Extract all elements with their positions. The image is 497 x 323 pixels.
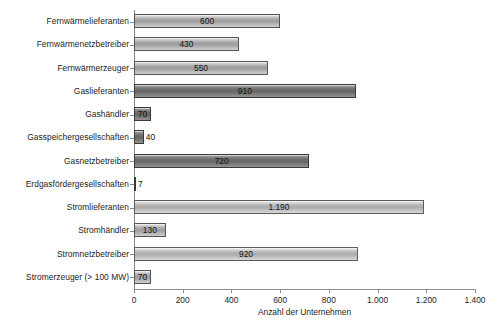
bar[interactable]: 130	[134, 223, 166, 237]
category-label: Fernwärmenetzbetreiber	[37, 39, 129, 49]
x-axis-tick-label: 1.400	[465, 295, 486, 305]
bar[interactable]: 920	[134, 247, 358, 261]
chart-row: Fernwärmenetzbetreiber430	[0, 33, 497, 55]
x-axis-tick	[378, 289, 379, 293]
bar-wrapper[interactable]: 7	[134, 177, 136, 191]
bar-chart: Fernwärmelieferanten600Fernwärmenetzbetr…	[0, 0, 497, 323]
category-label: Fernwärmerzeuger	[57, 63, 129, 73]
category-label: Stromerzeuger (> 100 MW)	[26, 272, 129, 282]
x-axis-tick-label: 400	[224, 295, 238, 305]
bar[interactable]: 550	[134, 61, 268, 75]
x-axis-tick-label: 1.200	[416, 295, 437, 305]
x-axis-tick-label: 800	[322, 295, 336, 305]
chart-row: Stromhändler130	[0, 219, 497, 241]
x-axis-tick	[329, 289, 330, 293]
bar-wrapper[interactable]: 40	[134, 130, 144, 144]
bar-value-label: 910	[135, 86, 355, 95]
chart-row: Stromlieferanten1.190	[0, 196, 497, 218]
x-axis-tick-label: 200	[176, 295, 190, 305]
bar-wrapper[interactable]: 70	[134, 270, 151, 284]
x-axis-tick	[183, 289, 184, 293]
category-label: Stromlieferanten	[67, 202, 129, 212]
bar-value-label: 430	[135, 40, 238, 49]
x-axis-tick	[280, 289, 281, 293]
x-axis-tick	[475, 289, 476, 293]
category-label: Gasnetzbetreiber	[64, 156, 129, 166]
category-label: Gasspeichergesellschaften	[27, 132, 129, 142]
bar-wrapper[interactable]: 920	[134, 247, 358, 261]
x-axis-tick-label: 1.000	[367, 295, 388, 305]
x-axis-line	[134, 289, 476, 290]
x-axis-title-text: Anzahl der Unternehmen	[258, 307, 351, 317]
bar-value-label: 550	[135, 63, 267, 72]
category-label: Gashändler	[85, 109, 129, 119]
bar-wrapper[interactable]: 910	[134, 84, 356, 98]
bar-value-label: 70	[135, 272, 150, 281]
bar-value-label: 600	[135, 17, 279, 26]
category-label: Fernwärmelieferanten	[47, 16, 129, 26]
bar-wrapper[interactable]: 600	[134, 14, 280, 28]
bar-value-label: 40	[144, 133, 155, 142]
x-axis-tick	[231, 289, 232, 293]
chart-row: Gaslieferanten910	[0, 80, 497, 102]
bar-wrapper[interactable]: 550	[134, 61, 268, 75]
x-axis-tick	[134, 289, 135, 293]
bar[interactable]: 1.190	[134, 200, 424, 214]
bar[interactable]: 430	[134, 37, 239, 51]
bar-wrapper[interactable]: 430	[134, 37, 239, 51]
bar[interactable]: 600	[134, 14, 280, 28]
category-label: Stromhändler	[78, 225, 129, 235]
category-label: Gaslieferanten	[74, 86, 129, 96]
x-axis-tick-label: 600	[273, 295, 287, 305]
chart-row: Gashändler70	[0, 103, 497, 125]
bar-wrapper[interactable]: 1.190	[134, 200, 424, 214]
bar-wrapper[interactable]: 70	[134, 107, 151, 121]
chart-row: Erdgasfördergesellschaften7	[0, 173, 497, 195]
category-label: Stromnetzbetreiber	[57, 249, 129, 259]
bar-wrapper[interactable]: 720	[134, 154, 309, 168]
bar[interactable]: 720	[134, 154, 309, 168]
x-axis-tick	[426, 289, 427, 293]
chart-row: Fernwärmerzeuger550	[0, 57, 497, 79]
bar-value-label: 7	[136, 179, 143, 188]
chart-row: Fernwärmelieferanten600	[0, 10, 497, 32]
bar-wrapper[interactable]: 130	[134, 223, 166, 237]
category-label: Erdgasfördergesellschaften	[26, 179, 129, 189]
chart-row: Stromnetzbetreiber920	[0, 243, 497, 265]
x-axis-tick-label: 0	[132, 295, 137, 305]
bar-value-label: 130	[135, 226, 165, 235]
bar-value-label: 920	[135, 249, 357, 258]
bar[interactable]	[134, 130, 144, 144]
x-axis-title: Anzahl der Unternehmen	[0, 307, 497, 317]
bar-value-label: 70	[135, 110, 150, 119]
chart-row: Gasspeichergesellschaften40	[0, 126, 497, 148]
bar[interactable]: 70	[134, 107, 151, 121]
chart-row: Stromerzeuger (> 100 MW)70	[0, 266, 497, 288]
bar[interactable]: 910	[134, 84, 356, 98]
chart-row: Gasnetzbetreiber720	[0, 150, 497, 172]
bar[interactable]: 70	[134, 270, 151, 284]
bar-value-label: 720	[135, 156, 308, 165]
bar-value-label: 1.190	[135, 203, 423, 212]
